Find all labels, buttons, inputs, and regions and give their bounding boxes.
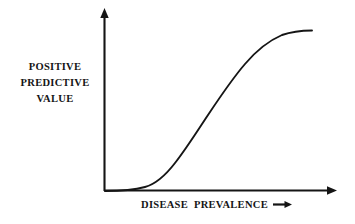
y-axis-arrowhead-icon [100, 8, 108, 18]
y-axis-label-line-3: VALUE [10, 91, 100, 107]
figure-positive-predictive-value-chart: POSITIVE PREDICTIVE VALUE DISEASE PREVAL… [0, 0, 355, 224]
x-axis-label-text: DISEASE PREVALENCE [141, 198, 268, 211]
y-axis-label-line-2: PREDICTIVE [10, 75, 100, 91]
x-axis-label: DISEASE PREVALENCE [141, 198, 293, 211]
y-axis-label-line-1: POSITIVE [10, 59, 100, 75]
chart-plot-area [0, 0, 355, 224]
y-axis-label: POSITIVE PREDICTIVE VALUE [10, 59, 100, 107]
right-arrow-icon [273, 200, 293, 209]
x-axis-arrowhead-icon [327, 186, 337, 195]
ppv-curve [105, 31, 312, 192]
